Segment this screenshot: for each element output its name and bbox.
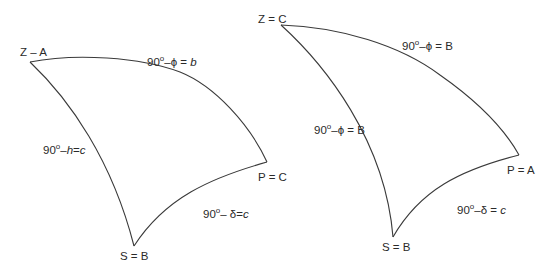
left-vertex-pole-label: P = C	[258, 171, 287, 183]
left-triangle: Z – A P = C S = B 90o–ϕ = b 90o–h=c 90o–…	[20, 46, 287, 262]
left-vertex-zenith-label: Z – A	[20, 46, 47, 58]
left-edge-zenith-star-label: 90o–h=c	[43, 142, 86, 156]
right-triangle: Z = C P = A S = B 90o–ϕ = B 90o–ϕ = B 90…	[258, 13, 535, 253]
left-edge-pole-star-label: 90o– δ=c	[203, 206, 249, 220]
right-vertex-star-label: S = B	[382, 241, 411, 253]
right-edge-pole-star	[393, 155, 519, 237]
spherical-triangles-diagram: Z – A P = C S = B 90o–ϕ = b 90o–h=c 90o–…	[0, 0, 555, 273]
right-edge-pole-star-label: 90o–δ = c	[457, 202, 506, 216]
right-vertex-pole-label: P = A	[507, 164, 535, 176]
left-vertex-star-label: S = B	[120, 250, 149, 262]
right-edge-zenith-pole-label: 90o–ϕ = B	[402, 38, 453, 52]
right-edge-zenith-star-label: 90o–ϕ = B	[314, 122, 365, 136]
left-edge-pole-star	[134, 162, 267, 246]
left-edge-zenith-pole-label: 90o–ϕ = b	[147, 54, 197, 68]
right-vertex-zenith-label: Z = C	[258, 13, 286, 25]
